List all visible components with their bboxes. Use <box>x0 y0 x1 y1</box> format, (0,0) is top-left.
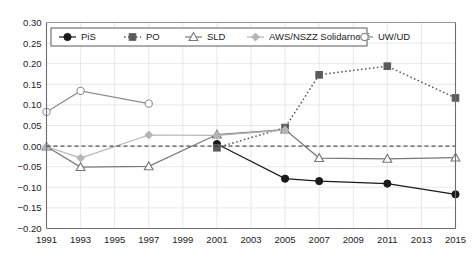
x-axis-tick-labels: 1991199319951997199920012003200520072009… <box>36 234 466 245</box>
data-point-marker <box>214 144 221 151</box>
legend-item-uw-ud[interactable]: UW/UD <box>356 31 410 42</box>
y-tick-label: −0.15 <box>17 202 41 213</box>
data-point-marker <box>145 100 152 107</box>
x-tick-label: 2015 <box>445 234 466 245</box>
x-tick-label: 2013 <box>411 234 432 245</box>
series-line <box>47 130 286 158</box>
legend-label: PiS <box>81 31 96 42</box>
data-point-marker <box>361 33 368 40</box>
chart-container: 0.300.250.200.150.100.050.00−0.05−0.10−0… <box>0 0 474 260</box>
data-point-marker <box>316 72 323 79</box>
y-tick-label: −0.10 <box>17 182 41 193</box>
data-point-marker <box>129 34 136 41</box>
series-pis <box>213 140 459 197</box>
data-point-marker <box>316 178 323 185</box>
data-point-marker <box>384 180 391 187</box>
gridlines <box>47 23 456 229</box>
data-point-marker <box>145 131 153 139</box>
legend-label: SLD <box>207 31 226 42</box>
x-tick-label: 2003 <box>240 234 261 245</box>
legend-label: UW/UD <box>378 31 410 42</box>
legend-label: AWS/NSZZ Solidarność <box>269 31 370 42</box>
y-tick-label: −0.05 <box>17 161 41 172</box>
data-point-marker <box>64 33 71 40</box>
data-point-marker <box>77 87 84 94</box>
legend-label: PO <box>146 31 160 42</box>
series-uw-ud <box>43 87 152 115</box>
x-tick-label: 2005 <box>275 234 296 245</box>
series-line <box>217 66 456 148</box>
data-point-marker <box>77 154 85 162</box>
x-tick-label: 2009 <box>343 234 364 245</box>
y-tick-label: 0.10 <box>23 99 42 110</box>
x-tick-label: 2007 <box>309 234 330 245</box>
chart-legend: PiSPOSLDAWS/NSZZ SolidarnośćUW/UD <box>51 28 410 46</box>
y-tick-label: 0.05 <box>23 120 42 131</box>
y-tick-label: 0.15 <box>23 79 42 90</box>
y-tick-label: −0.20 <box>17 223 41 234</box>
y-tick-label: 0.00 <box>23 141 42 152</box>
x-tick-label: 1999 <box>172 234 193 245</box>
x-tick-label: 2001 <box>206 234 227 245</box>
series-po <box>214 63 459 151</box>
line-chart: 0.300.250.200.150.100.050.00−0.05−0.10−0… <box>0 0 474 260</box>
y-axis-tick-labels: 0.300.250.200.150.100.050.00−0.05−0.10−0… <box>17 17 41 234</box>
x-tick-label: 1991 <box>36 234 57 245</box>
x-tick-label: 1997 <box>138 234 159 245</box>
y-tick-label: 0.25 <box>23 38 42 49</box>
series-line <box>217 144 456 194</box>
x-tick-label: 1995 <box>104 234 125 245</box>
series-line <box>47 91 149 112</box>
y-tick-label: 0.20 <box>23 58 42 69</box>
data-point-marker <box>281 175 288 182</box>
x-tick-label: 1993 <box>70 234 91 245</box>
y-tick-label: 0.30 <box>23 17 42 28</box>
data-point-marker <box>384 63 391 70</box>
x-tick-label: 2011 <box>377 234 397 245</box>
